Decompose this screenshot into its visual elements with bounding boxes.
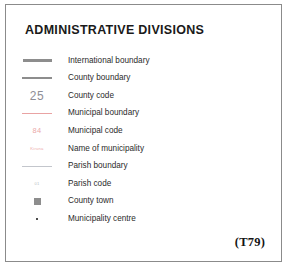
legend-item-label: Parish boundary [68,162,128,170]
legend-item-label: County boundary [68,74,130,82]
legend-item-label: Parish code [68,180,111,188]
legend-symbol-cell [6,52,68,70]
legend-symbol-cell [6,70,68,88]
legend-item-label: County town [68,197,114,205]
list-item: 25 County code [6,87,281,105]
list-item: County town [6,193,281,211]
legend-symbol-cell: 84 [6,122,68,140]
legend-symbol-cell: Kiruna [6,140,68,158]
municipal-code-sample-icon: 84 [33,127,42,134]
medium-grey-line-icon [22,77,52,79]
list-item: Kiruna Name of municipality [6,140,281,158]
legend-symbol-cell: 25 [6,87,68,105]
legend-item-label: International boundary [68,57,149,65]
black-dot-icon [36,218,39,221]
legend-item-label: County code [68,92,114,100]
county-code-sample-icon: 25 [30,90,44,102]
list-item: County boundary [6,70,281,88]
legend-symbol-cell [6,210,68,228]
legend-symbol-cell [6,158,68,176]
thin-pink-line-icon [22,113,52,114]
legend-symbol-cell: 01 [6,175,68,193]
legend-item-label: Municipal code [68,127,123,135]
legend-item-label: Municipal boundary [68,109,139,117]
legend-item-label: Name of municipality [68,145,144,153]
legend-item-label: Municipality centre [68,215,136,223]
legend-item-list: International boundary County boundary 2… [6,52,281,228]
page-title: ADMINISTRATIVE DIVISIONS [25,23,204,37]
grey-square-icon [34,198,41,205]
thick-grey-line-icon [23,59,52,62]
list-item: 01 Parish code [6,175,281,193]
list-item: Parish boundary [6,158,281,176]
hairline-grey-line-icon [22,166,52,167]
list-item: International boundary [6,52,281,70]
list-item: Municipal boundary [6,105,281,123]
list-item: Municipality centre [6,210,281,228]
figure-caption: (T79) [235,235,265,250]
legend-symbol-cell [6,193,68,211]
legend-symbol-cell [6,105,68,123]
list-item: 84 Municipal code [6,122,281,140]
legend-card: ADMINISTRATIVE DIVISIONS International b… [5,4,282,262]
parish-code-sample-icon: 01 [35,182,40,186]
municipality-name-sample-icon: Kiruna [30,147,43,151]
